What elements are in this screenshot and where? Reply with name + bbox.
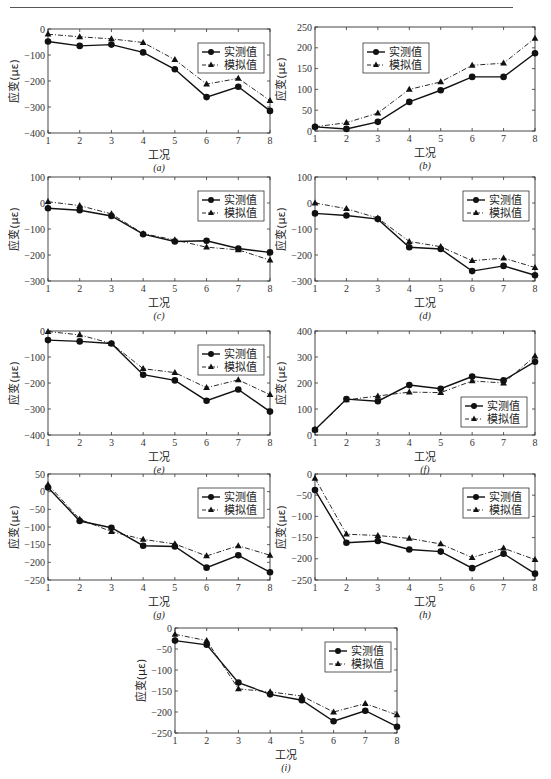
triangle-marker-icon: [76, 202, 83, 208]
legend-circle-icon: [208, 351, 214, 357]
y-tick-label: 150: [297, 63, 312, 74]
triangle-marker-icon: [45, 198, 52, 204]
x-tick-label: 8: [268, 283, 273, 294]
y-tick-label: −50: [156, 644, 172, 655]
legend-measured-label: 实测值: [224, 45, 257, 59]
legend-measured-label: 实测值: [224, 347, 257, 361]
y-tick-label: 0: [307, 126, 312, 137]
y-tick-label: 100: [297, 172, 312, 183]
circle-marker-icon: [406, 546, 413, 553]
y-tick-label: −200: [291, 250, 312, 261]
x-tick-label: 1: [46, 437, 51, 448]
x-tick-label: 6: [204, 582, 209, 593]
triangle-marker-icon: [532, 35, 539, 41]
circle-marker-icon: [375, 398, 382, 405]
y-tick-label: 0: [40, 24, 45, 35]
legend-simulated-label: 模拟值: [224, 206, 257, 220]
panel-label: (i): [281, 762, 291, 774]
circle-marker-icon: [45, 337, 52, 344]
circle-marker-icon: [500, 263, 507, 270]
y-tick-label: 300: [297, 352, 312, 363]
circle-marker-icon: [45, 205, 52, 212]
chart-panel-d: 123456781000−100−200−300工况应变(με)(d)实测值模拟…: [274, 172, 538, 323]
x-tick-label: 2: [344, 582, 349, 593]
circle-marker-icon: [172, 377, 179, 384]
triangle-marker-icon: [532, 353, 539, 359]
x-tick-label: 2: [77, 135, 82, 146]
legend-simulated-label: 模拟值: [489, 503, 522, 517]
y-tick-label: −200: [151, 707, 172, 718]
x-tick-label: 5: [438, 133, 443, 144]
circle-marker-icon: [500, 74, 507, 81]
x-tick-label: 2: [344, 437, 349, 448]
x-axis-title: 工况: [414, 297, 436, 310]
x-axis-title: 工况: [414, 451, 436, 464]
x-tick-label: 3: [375, 582, 380, 593]
triangle-marker-icon: [76, 331, 83, 337]
x-tick-label: 2: [344, 283, 349, 294]
y-axis-title: 应变(με): [274, 505, 288, 549]
y-tick-label: −100: [24, 50, 45, 61]
triangle-marker-icon: [76, 33, 83, 39]
legend: 实测值模拟值: [198, 43, 264, 73]
x-tick-label: 4: [268, 735, 273, 746]
x-tick-label: 8: [533, 283, 538, 294]
triangle-marker-icon: [267, 257, 274, 263]
circle-marker-icon: [203, 564, 210, 571]
legend-measured-label: 实测值: [487, 399, 520, 413]
y-tick-label: −50: [296, 490, 312, 501]
circle-marker-icon: [140, 49, 147, 56]
triangle-marker-icon: [500, 60, 507, 66]
y-tick-label: 0: [307, 198, 312, 209]
chart-panel-h: 123456780−50−100−150−200−250工况应变(με)(h)实…: [274, 469, 538, 622]
legend-circle-icon: [335, 648, 341, 654]
legend-circle-icon: [473, 494, 479, 500]
y-tick-label: 0: [307, 430, 312, 441]
triangle-marker-icon: [267, 391, 274, 397]
y-tick-label: 400: [297, 326, 312, 337]
x-tick-label: 6: [204, 283, 209, 294]
legend-simulated-label: 模拟值: [489, 206, 522, 220]
circle-marker-icon: [469, 74, 476, 81]
y-axis-title: 应变(με): [274, 361, 288, 405]
x-axis-title: 工况: [148, 297, 170, 310]
y-tick-label: 50: [302, 105, 312, 116]
y-tick-label: 0: [167, 623, 172, 634]
legend-measured-label: 实测值: [351, 644, 384, 658]
y-tick-label: −150: [24, 539, 45, 550]
legend: 实测值模拟值: [325, 642, 391, 672]
circle-marker-icon: [108, 41, 115, 48]
x-tick-label: 3: [109, 437, 114, 448]
y-axis-title: 应变(με): [274, 57, 288, 101]
panel-label: (h): [419, 609, 431, 621]
x-tick-label: 1: [313, 133, 318, 144]
y-axis-title: 应变(με): [7, 505, 21, 549]
legend-circle-icon: [208, 49, 214, 55]
legend-simulated-label: 模拟值: [224, 360, 257, 374]
legend-circle-icon: [471, 403, 477, 409]
x-tick-label: 7: [501, 582, 506, 593]
circle-marker-icon: [375, 538, 382, 545]
chart-panel-i: 123456780−50−100−150−200−250工况应变(με)(i)实…: [134, 623, 400, 775]
x-tick-label: 6: [470, 133, 475, 144]
x-tick-label: 6: [204, 437, 209, 448]
circle-marker-icon: [140, 542, 147, 549]
triangle-marker-icon: [374, 110, 381, 116]
x-tick-label: 6: [470, 283, 475, 294]
y-tick-label: −150: [291, 532, 312, 543]
x-tick-label: 5: [172, 582, 177, 593]
chart-panel-f: 123456784003002001000工况应变(με)(f)实测值模拟值: [274, 326, 538, 477]
y-tick-label: −100: [291, 224, 312, 235]
y-tick-label: −100: [151, 665, 172, 676]
chart-panel-b: 12345678250200150100500工况应变(με)(b)实测值模拟值: [274, 22, 538, 173]
legend-measured-label: 实测值: [389, 45, 422, 59]
x-tick-label: 1: [46, 582, 51, 593]
chart-panel-g: 12345678500−50−100−150−200−250工况应变(με)(g…: [7, 469, 273, 622]
y-tick-label: −100: [291, 511, 312, 522]
x-tick-label: 2: [77, 437, 82, 448]
x-tick-label: 1: [313, 283, 318, 294]
y-tick-label: 0: [40, 326, 45, 337]
x-tick-label: 6: [204, 135, 209, 146]
y-tick-label: 0: [40, 486, 45, 497]
x-tick-label: 7: [363, 735, 368, 746]
